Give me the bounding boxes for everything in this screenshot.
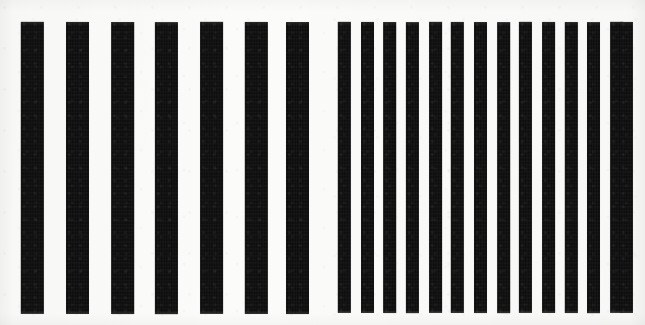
stripe-bar: [474, 22, 487, 313]
stripe-bar: [338, 22, 351, 313]
stripe-bar: [542, 22, 555, 313]
stripe-bar: [519, 22, 532, 313]
stripe-bar: [565, 22, 578, 313]
stripe-bar: [497, 22, 510, 313]
stripe-bar: [587, 22, 600, 313]
stripe-bar: [406, 22, 419, 313]
right-fine-bar-group: [0, 0, 645, 325]
stripe-bar: [361, 22, 374, 313]
stripe-bar: [383, 22, 396, 313]
stripe-pattern-figure: Two blocks of vertical black bars on whi…: [0, 0, 645, 325]
stripe-bar: [451, 22, 464, 313]
stripe-bar: [620, 22, 633, 313]
stripe-bar: [429, 22, 442, 313]
